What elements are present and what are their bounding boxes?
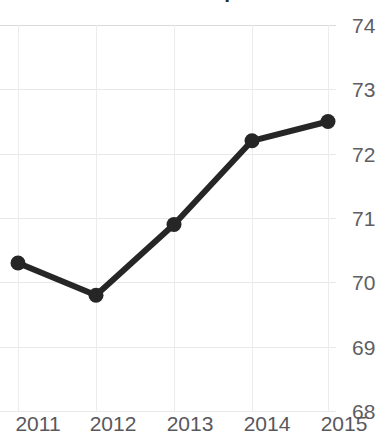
series-western-europe xyxy=(0,25,336,411)
y-axis-tick-label: 72 xyxy=(352,144,390,165)
series-line xyxy=(18,122,328,296)
y-axis-tick-label: 69 xyxy=(352,337,390,358)
x-axis-tick-label: 2013 xyxy=(167,413,214,434)
series-markers xyxy=(11,114,336,303)
y-axis-tick-label: 73 xyxy=(352,79,390,100)
data-point xyxy=(167,217,182,232)
data-point xyxy=(11,256,26,271)
data-point xyxy=(89,288,104,303)
y-axis-tick-label: 71 xyxy=(352,208,390,229)
x-axis-tick-label: 2014 xyxy=(244,413,291,434)
x-axis-tick-label: 2011 xyxy=(15,413,60,434)
plot-area xyxy=(0,25,336,411)
line-chart: Western Europe 74 73 72 71 70 69 68 2011… xyxy=(0,0,390,441)
x-axis-tick-label: 2015 xyxy=(321,413,368,434)
x-axis-tick-label: 2012 xyxy=(90,413,137,434)
data-point xyxy=(321,114,336,129)
y-axis-tick-label: 70 xyxy=(352,272,390,293)
y-axis-tick-label: 74 xyxy=(352,15,390,36)
data-point xyxy=(245,133,260,148)
chart-title: Western Europe xyxy=(0,0,336,3)
